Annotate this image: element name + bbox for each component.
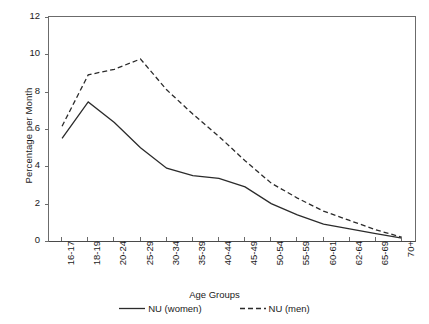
- x-tick-label: 30-34: [170, 241, 181, 265]
- legend-solid-line-icon: [119, 305, 145, 312]
- x-tick-mark: [113, 237, 114, 241]
- x-tick-mark: [87, 237, 88, 241]
- legend-label: NU (women): [148, 303, 201, 314]
- x-tick-label: 18-19: [91, 241, 102, 265]
- x-tick-label: 16-17: [65, 241, 76, 265]
- x-tick-label: 70+: [405, 241, 416, 257]
- y-tick-label: 6: [14, 123, 40, 133]
- x-tick-mark: [296, 237, 297, 241]
- y-tick-mark: [45, 166, 49, 167]
- x-tick-mark: [140, 237, 141, 241]
- y-tick-mark: [45, 129, 49, 130]
- y-tick-mark: [45, 204, 49, 205]
- legend-item: NU (men): [240, 303, 310, 314]
- x-axis-title: Age Groups: [0, 289, 429, 300]
- x-tick-mark: [375, 237, 376, 241]
- x-tick-label: 50-54: [274, 241, 285, 265]
- x-tick-label: 55-59: [300, 241, 311, 265]
- y-tick-label: 2: [14, 198, 40, 208]
- x-tick-label: 45-49: [248, 241, 259, 265]
- legend-dashed-line-icon: [240, 305, 266, 312]
- series-lines: [49, 17, 415, 241]
- x-tick-mark: [192, 237, 193, 241]
- x-tick-mark: [323, 237, 324, 241]
- x-tick-label: 60-61: [327, 241, 338, 265]
- plot-area: [48, 16, 416, 242]
- x-tick-mark: [349, 237, 350, 241]
- x-tick-mark: [401, 237, 402, 241]
- y-tick-label: 8: [14, 86, 40, 96]
- y-tick-mark: [45, 92, 49, 93]
- x-tick-mark: [166, 237, 167, 241]
- x-tick-label: 35-39: [196, 241, 207, 265]
- x-tick-label: 40-44: [222, 241, 233, 265]
- y-tick-label: 0: [14, 235, 40, 245]
- legend-item: NU (women): [119, 303, 201, 314]
- y-tick-label: 4: [14, 161, 40, 171]
- x-tick-label: 65-69: [379, 241, 390, 265]
- y-axis-tick-labels: 024681012: [14, 0, 40, 324]
- x-tick-label: 62-64: [353, 241, 364, 265]
- x-tick-label: 20-24: [117, 241, 128, 265]
- series-line: [62, 59, 402, 237]
- x-tick-mark: [218, 237, 219, 241]
- y-tick-mark: [45, 54, 49, 55]
- x-tick-mark: [61, 237, 62, 241]
- chart-legend: NU (women)NU (men): [0, 303, 429, 314]
- chart-figure: Percentage per Month 024681012 16-1718-1…: [0, 0, 429, 324]
- x-tick-mark: [244, 237, 245, 241]
- x-tick-label: 25-29: [144, 241, 155, 265]
- y-tick-label: 10: [14, 49, 40, 59]
- x-tick-mark: [270, 237, 271, 241]
- series-line: [62, 102, 402, 238]
- y-tick-mark: [45, 17, 49, 18]
- legend-label: NU (men): [269, 303, 310, 314]
- y-tick-label: 12: [14, 11, 40, 21]
